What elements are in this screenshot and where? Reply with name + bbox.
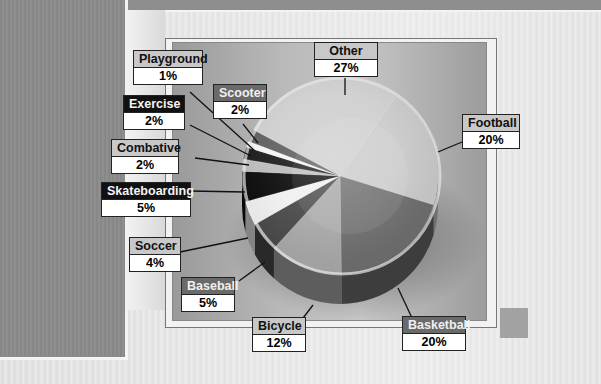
label-other-name: Other: [315, 43, 377, 60]
label-scooter-name: Scooter: [214, 85, 266, 102]
label-exercise: Exercise 2%: [123, 95, 185, 130]
pie-shine: [245, 79, 439, 273]
label-football: Football 20%: [462, 114, 520, 149]
label-combative-value: 2%: [112, 157, 178, 173]
label-bicycle: Bicycle 12%: [252, 317, 306, 352]
label-football-name: Football: [463, 115, 519, 132]
label-soccer-value: 4%: [130, 255, 180, 271]
label-soccer: Soccer 4%: [129, 237, 181, 272]
label-football-value: 20%: [463, 132, 519, 148]
label-combative-name: Combative: [112, 140, 178, 157]
label-basketball: Basketball 20%: [402, 316, 466, 351]
label-basketball-value: 20%: [403, 334, 465, 350]
label-skateboarding-name: Skateboarding: [102, 183, 190, 200]
label-bicycle-name: Bicycle: [253, 318, 305, 335]
label-playground: Playground 1%: [133, 50, 203, 85]
label-basketball-name: Basketball: [403, 317, 465, 334]
label-combative: Combative 2%: [111, 139, 179, 174]
label-scooter: Scooter 2%: [213, 84, 267, 119]
label-playground-value: 1%: [134, 68, 202, 84]
label-baseball-value: 5%: [182, 295, 234, 311]
label-skateboarding: Skateboarding 5%: [101, 182, 191, 217]
label-other: Other 27%: [314, 42, 378, 77]
label-baseball: Baseball 5%: [181, 277, 235, 312]
label-soccer-name: Soccer: [130, 238, 180, 255]
label-other-value: 27%: [315, 60, 377, 76]
label-exercise-value: 2%: [124, 113, 184, 129]
label-baseball-name: Baseball: [182, 278, 234, 295]
label-scooter-value: 2%: [214, 102, 266, 118]
label-skateboarding-value: 5%: [102, 200, 190, 216]
label-exercise-name: Exercise: [124, 96, 184, 113]
label-playground-name: Playground: [134, 51, 202, 68]
label-bicycle-value: 12%: [253, 335, 305, 351]
